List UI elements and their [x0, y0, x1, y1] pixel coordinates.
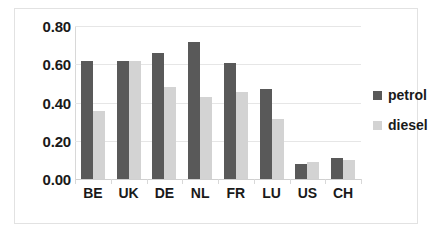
x-axis-tick-label-nl: NL — [182, 185, 218, 201]
bar-group — [325, 26, 361, 179]
x-axis-tick-label-de: DE — [147, 185, 183, 201]
y-axis-tick-label: 0.20 — [17, 132, 71, 149]
x-axis-tick-label-be: BE — [75, 185, 111, 201]
x-axis-tick-label-fr: FR — [218, 185, 254, 201]
x-axis-tick-label-uk: UK — [111, 185, 147, 201]
x-axis-tick-mark — [75, 179, 76, 184]
legend-item-petrol: petrol — [373, 87, 428, 103]
x-axis-tick-mark — [254, 179, 255, 184]
legend-swatch-petrol — [373, 91, 382, 100]
bar-diesel-de — [164, 87, 176, 179]
x-axis-tick-mark — [111, 179, 112, 184]
x-axis-tick-labels: BEUKDENLFRLUUSCH — [75, 185, 361, 201]
x-axis-tick-mark — [290, 179, 291, 184]
bar-group — [111, 26, 147, 179]
x-axis-tick-mark — [325, 179, 326, 184]
bar-diesel-be — [93, 111, 105, 179]
x-axis-tick-mark — [361, 179, 362, 184]
bar-diesel-lu — [272, 119, 284, 179]
bar-diesel-ch — [343, 160, 355, 179]
chart-legend: petroldiesel — [373, 87, 428, 147]
bar-groups — [75, 26, 361, 179]
bar-petrol-nl — [188, 42, 200, 179]
legend-swatch-diesel — [373, 121, 382, 130]
chart-container: 0.000.200.400.600.80 BEUKDENLFRLUUSCH pe… — [14, 8, 418, 224]
bar-petrol-ch — [331, 158, 343, 179]
x-axis-tick-mark — [147, 179, 148, 184]
bar-group — [147, 26, 183, 179]
legend-item-diesel: diesel — [373, 117, 428, 133]
bar-diesel-fr — [236, 92, 248, 179]
y-axis-tick-label: 0.00 — [17, 171, 71, 188]
bar-petrol-be — [81, 61, 93, 179]
y-axis-tick-label: 0.40 — [17, 94, 71, 111]
bar-diesel-uk — [129, 61, 141, 179]
y-axis-tick-label: 0.80 — [17, 18, 71, 35]
bar-group — [254, 26, 290, 179]
x-axis-tick-mark — [218, 179, 219, 184]
y-axis-tick-labels: 0.000.200.400.600.80 — [15, 26, 71, 179]
x-axis-tick-label-us: US — [290, 185, 326, 201]
x-axis-tick-label-ch: CH — [325, 185, 361, 201]
bar-group — [182, 26, 218, 179]
bar-group — [218, 26, 254, 179]
bar-petrol-de — [152, 53, 164, 179]
bar-diesel-nl — [200, 97, 212, 179]
x-axis-tick-label-lu: LU — [254, 185, 290, 201]
y-axis-tick-label: 0.60 — [17, 56, 71, 73]
x-axis-tick-mark — [182, 179, 183, 184]
plot-area — [75, 26, 361, 179]
bar-petrol-lu — [260, 89, 272, 179]
bar-group — [290, 26, 326, 179]
bar-group — [75, 26, 111, 179]
bar-petrol-us — [295, 164, 307, 179]
bar-diesel-us — [307, 162, 319, 179]
legend-label-diesel: diesel — [388, 117, 428, 133]
bar-petrol-fr — [224, 63, 236, 179]
bar-petrol-uk — [117, 61, 129, 179]
legend-label-petrol: petrol — [388, 87, 427, 103]
